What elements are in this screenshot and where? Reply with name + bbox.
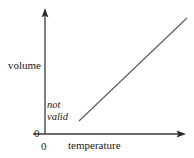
y-axis-origin-tick-label: 0 bbox=[34, 128, 40, 139]
not-valid-annotation: not valid bbox=[47, 99, 68, 122]
y-axis-label: volume bbox=[8, 60, 41, 71]
graph-figure: volume temperature 0 0 not valid bbox=[0, 0, 194, 158]
x-axis-origin-tick-label: 0 bbox=[41, 141, 47, 152]
annotation-line-2: valid bbox=[47, 111, 68, 123]
plot-area bbox=[0, 0, 194, 158]
annotation-line-1: not bbox=[47, 99, 68, 111]
data-line bbox=[79, 18, 187, 121]
x-axis-label: temperature bbox=[68, 140, 121, 151]
